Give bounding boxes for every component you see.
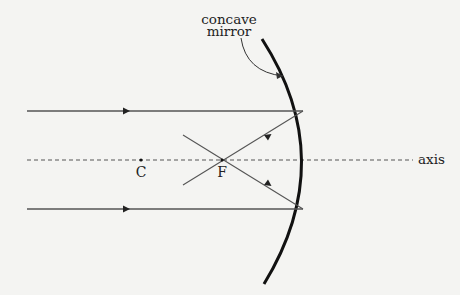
focus-label: F — [217, 164, 227, 180]
focal-point — [220, 158, 223, 161]
reflected-ray-lower — [183, 135, 303, 209]
arrowhead-upper-reflected — [264, 134, 272, 141]
ray-diagram: concave mirror C F axis — [0, 0, 460, 295]
arrowhead-lower-incident — [123, 206, 130, 213]
center-label: C — [136, 164, 147, 180]
mirror-label-line2: mirror — [207, 23, 252, 39]
axis-label: axis — [418, 151, 445, 167]
mirror-pointer-arrow — [241, 38, 283, 76]
arrowhead-lower-reflected — [264, 180, 272, 187]
center-of-curvature-point — [139, 158, 142, 161]
arrowhead-upper-incident — [123, 108, 130, 115]
reflected-ray-upper — [183, 111, 303, 185]
